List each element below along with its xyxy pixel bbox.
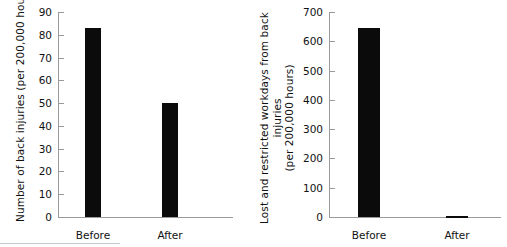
y-axis-tick-label: 100 (303, 182, 323, 194)
y-axis-tick (330, 129, 335, 130)
chart-panel-back-injuries: Number of back injuries (per 200,000 hou… (0, 0, 253, 247)
y-axis-tick-label: 300 (303, 123, 323, 135)
y-axis-tick-label: 50 (39, 97, 52, 109)
y-axis-title-right: Lost and restricted workdays from back i… (258, 12, 296, 224)
x-axis-line-right (329, 217, 501, 218)
y-axis-title-right-line2: (per 200,000 hours) (283, 64, 295, 171)
x-axis-line-left (58, 217, 233, 218)
caption-rule (0, 243, 120, 244)
bar-after (162, 103, 178, 217)
y-axis-tick (59, 194, 64, 195)
y-axis-tick-label: 20 (39, 165, 52, 177)
y-axis-tick-label: 500 (303, 65, 323, 77)
y-axis-tick-label: 600 (303, 35, 323, 47)
x-axis-tick-label: After (444, 229, 469, 241)
y-axis-tick-label: 700 (303, 6, 323, 18)
chart-panel-lost-workdays: Lost and restricted workdays from back i… (253, 0, 507, 247)
bar-before (358, 28, 380, 217)
y-axis-tick (59, 171, 64, 172)
y-axis-title-right-line1: Lost and restricted workdays from back i… (258, 12, 283, 224)
y-axis-tick-label: 90 (39, 6, 52, 18)
y-axis-tick (330, 188, 335, 189)
y-axis-tick (59, 35, 64, 36)
y-axis-tick-label: 0 (45, 211, 52, 223)
y-axis-tick (330, 71, 335, 72)
x-axis-tick-label: After (157, 229, 182, 241)
y-axis-line-left (58, 12, 59, 218)
y-axis-tick (330, 158, 335, 159)
y-axis-tick (330, 12, 335, 13)
y-axis-tick-label: 400 (303, 94, 323, 106)
y-axis-tick (59, 149, 64, 150)
y-axis-tick-label: 200 (303, 152, 323, 164)
x-axis-tick-label: Before (76, 229, 110, 241)
y-axis-tick-label: 0 (316, 211, 323, 223)
bar-after (446, 216, 468, 218)
y-axis-tick-label: 30 (39, 143, 52, 155)
y-axis-tick (59, 103, 64, 104)
y-axis-tick (59, 80, 64, 81)
y-axis-tick (59, 58, 64, 59)
y-axis-tick-label: 70 (39, 52, 52, 64)
y-axis-tick-label: 10 (39, 188, 52, 200)
y-axis-tick-label: 60 (39, 74, 52, 86)
plot-area-left: 9080706050403020100BeforeAfter (58, 12, 233, 218)
plot-area-right: 7006005004003002001000BeforeAfter (329, 12, 501, 218)
y-axis-tick (59, 12, 64, 13)
y-axis-tick (59, 126, 64, 127)
y-axis-tick (330, 41, 335, 42)
x-axis-tick-label: Before (352, 229, 386, 241)
figure-two-bar-charts: Number of back injuries (per 200,000 hou… (0, 0, 507, 247)
y-axis-tick (330, 100, 335, 101)
y-axis-tick-label: 80 (39, 29, 52, 41)
y-axis-tick-label: 40 (39, 120, 52, 132)
y-axis-title-left: Number of back injuries (per 200,000 hou… (14, 0, 27, 222)
bar-before (85, 28, 101, 217)
